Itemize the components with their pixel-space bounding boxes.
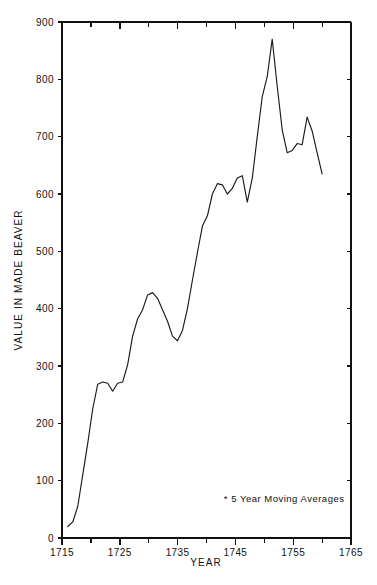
x-tick-label: 1755 [281,547,305,558]
x-tick-label: 1715 [50,547,74,558]
y-tick-label: 500 [36,246,54,257]
y-tick-label: 700 [36,131,54,142]
y-axis-title: VALUE IN MADE BEAVER [13,209,24,350]
x-axis-ticks-top [62,22,351,29]
x-tick-label: 1735 [166,547,190,558]
x-tick-label: 1725 [108,547,132,558]
x-axis-title: YEAR [190,557,222,568]
y-tick-label: 200 [36,418,54,429]
x-tick-label: 1765 [339,547,363,558]
chart-figure: 0100200300400500600700800900 17151725173… [0,0,377,585]
line-chart: 0100200300400500600700800900 17151725173… [0,0,377,585]
axes-frame [62,22,351,538]
y-tick-label: 400 [36,303,54,314]
y-tick-label: 0 [48,533,54,544]
y-tick-label: 900 [36,17,54,28]
x-axis-ticks-bottom [62,538,351,545]
x-tick-label: 1745 [223,547,247,558]
annotation-moving-average: * 5 Year Moving Averages [224,493,345,504]
y-tick-label: 600 [36,189,54,200]
y-tick-label: 100 [36,475,54,486]
series-group [68,39,322,526]
chart-annotations: * 5 Year Moving Averages [224,493,345,504]
y-axis-tick-labels: 0100200300400500600700800900 [36,17,54,544]
y-tick-label: 800 [36,74,54,85]
y-tick-label: 300 [36,361,54,372]
series-line-made-beaver [68,39,322,526]
